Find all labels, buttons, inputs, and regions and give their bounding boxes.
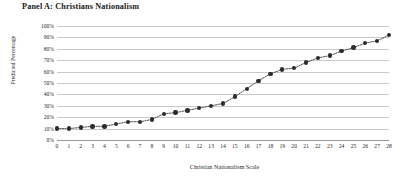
data-point [79, 125, 83, 129]
x-axis-tick-label: 20 [291, 143, 297, 150]
x-axis-tick-label: 18 [268, 143, 274, 150]
x-axis-tick-label: 22 [315, 143, 321, 150]
y-axis-tick-label: 100% [41, 23, 54, 29]
y-axis-tick-label: 60% [44, 69, 54, 75]
gridline [57, 140, 389, 141]
data-point [328, 53, 332, 57]
data-point [233, 94, 237, 98]
x-axis-tick-label: 19 [279, 143, 285, 150]
data-point [245, 87, 249, 91]
y-axis-tick-label: 80% [44, 46, 54, 52]
data-point [304, 60, 308, 64]
data-point [67, 126, 71, 130]
x-axis-tick-label: 13 [208, 143, 214, 150]
data-point [339, 49, 343, 53]
x-axis-tick-label: 10 [173, 143, 179, 150]
x-axis-title: Christian Nationalism Scale [0, 163, 409, 170]
y-axis-tick-label: 10% [44, 126, 54, 132]
y-axis-tick-label: 20% [44, 114, 54, 120]
data-point [316, 56, 320, 60]
data-point [55, 126, 59, 130]
data-point [268, 72, 272, 76]
data-point [138, 120, 142, 124]
data-point [90, 124, 94, 128]
data-point [173, 110, 177, 114]
data-point [387, 33, 391, 37]
x-axis-tick-label: 7 [139, 143, 142, 150]
data-point [162, 112, 166, 116]
y-axis-tick-label: 0% [47, 137, 54, 143]
x-axis-tick-label: 26 [362, 143, 368, 150]
x-axis-tick-label: 17 [256, 143, 262, 150]
x-axis-tick-label: 12 [196, 143, 202, 150]
x-axis-tick-label: 23 [327, 143, 333, 150]
data-point [150, 117, 154, 121]
y-axis-tick-label: 40% [44, 91, 54, 97]
x-axis-tick-label: 2 [79, 143, 82, 150]
y-axis-tick-label: 50% [44, 80, 54, 86]
x-axis-tick-label: 9 [162, 143, 165, 150]
x-axis-tick-label: 1 [67, 143, 70, 150]
x-axis-tick-label: 8 [150, 143, 153, 150]
data-point [351, 45, 355, 49]
x-axis-tick-label: 21 [303, 143, 309, 150]
data-point [221, 101, 225, 105]
y-axis-title: Predicted Percentage [10, 15, 16, 105]
x-axis-tick-label: 28 [386, 143, 392, 150]
chart-figure: Panel A: Christians Nationalism 0%10%20%… [0, 0, 409, 182]
x-axis-tick-label: 3 [91, 143, 94, 150]
data-point [102, 124, 106, 128]
series-line [57, 26, 389, 140]
x-axis-tick-label: 15 [232, 143, 238, 150]
x-axis-tick-label: 4 [103, 143, 106, 150]
x-axis-tick-label: 24 [339, 143, 345, 150]
data-point [185, 108, 189, 112]
x-axis-tick-label: 6 [127, 143, 130, 150]
y-axis-tick-label: 70% [44, 57, 54, 63]
data-point [280, 67, 284, 71]
plot-area [57, 26, 389, 140]
y-axis-tick-label: 30% [44, 103, 54, 109]
x-axis-tick-label: 27 [374, 143, 380, 150]
data-point [256, 79, 260, 83]
x-axis-tick-label: 25 [351, 143, 357, 150]
x-axis-tick-label: 16 [244, 143, 250, 150]
y-axis-tick-label: 90% [44, 34, 54, 40]
x-axis-tick-labels: 0123456789101112131415161718192021222324… [57, 143, 389, 155]
x-axis-tick-label: 0 [56, 143, 59, 150]
x-axis-tick-label: 11 [185, 143, 190, 150]
x-axis-tick-label: 14 [220, 143, 226, 150]
y-axis-tick-labels: 0%10%20%30%40%50%60%70%80%90%100% [0, 0, 57, 182]
x-axis-tick-label: 5 [115, 143, 118, 150]
